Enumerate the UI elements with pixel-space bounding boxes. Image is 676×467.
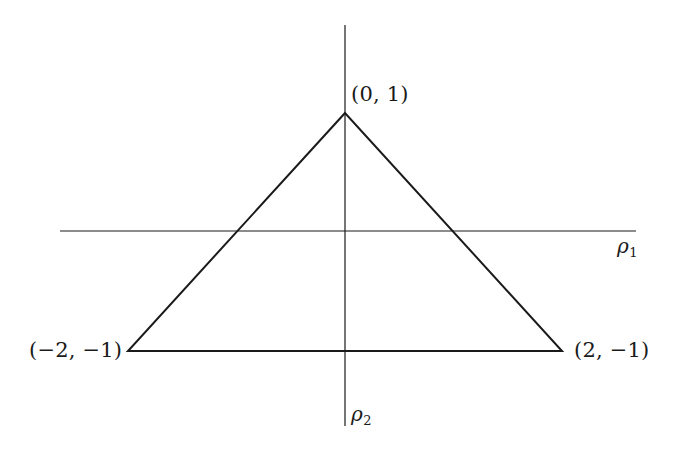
triangle-plot-svg <box>0 0 676 467</box>
axes-group <box>60 25 636 426</box>
rho-1-symbol: ρ <box>617 234 629 258</box>
vertex-label-bottom-right: (2, −1) <box>574 340 649 361</box>
rho-1-axis-label: ρ1 <box>617 236 637 256</box>
rho-2-axis-label: ρ2 <box>351 404 371 424</box>
rho-1-subscript: 1 <box>629 245 637 260</box>
rho-2-subscript: 2 <box>363 413 371 428</box>
rho-2-symbol: ρ <box>351 402 363 426</box>
vertex-label-bottom-left: (−2, −1) <box>29 340 122 361</box>
vertex-label-apex: (0, 1) <box>351 84 409 105</box>
figure-canvas: (0, 1) (−2, −1) (2, −1) ρ1 ρ2 <box>0 0 676 467</box>
